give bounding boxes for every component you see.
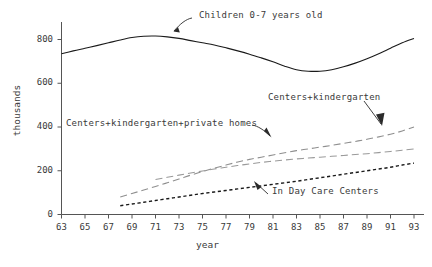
x-tick-marks xyxy=(62,215,415,219)
y-tick-label: 400 xyxy=(19,121,53,131)
arrow-head-ckph xyxy=(264,128,272,138)
x-tick-label: 85 xyxy=(310,222,330,232)
y-tick-label: 600 xyxy=(19,77,53,87)
x-tick-label: 83 xyxy=(287,222,307,232)
annotation-centers-kindergarten: Centers+kindergarten xyxy=(268,92,380,102)
x-tick-label: 79 xyxy=(240,222,260,232)
x-tick-label: 77 xyxy=(216,222,236,232)
x-tick-label: 91 xyxy=(381,222,401,232)
y-tick-label: 200 xyxy=(19,165,53,175)
series-line-children-0-7 xyxy=(62,36,415,71)
x-tick-label: 93 xyxy=(404,222,424,232)
annotation-centers-kindergarten-private-homes: Centers+kindergarten+private homes xyxy=(66,118,257,128)
x-tick-label: 69 xyxy=(122,222,142,232)
annotation-arrows xyxy=(174,18,385,194)
x-tick-label: 89 xyxy=(357,222,377,232)
x-tick-label: 63 xyxy=(52,222,72,232)
x-axis-title: year xyxy=(196,239,219,250)
series-line-centers-kindergarten xyxy=(156,149,415,180)
x-tick-label: 67 xyxy=(99,222,119,232)
chart-figure: thousands year 0200400600800 63656769717… xyxy=(0,0,432,267)
annotation-children-0-7: Children 0-7 years old xyxy=(199,10,323,20)
x-tick-label: 75 xyxy=(193,222,213,232)
y-tick-label: 0 xyxy=(19,209,53,219)
annotation-in-day-care-centers: In Day Care Centers xyxy=(272,186,379,196)
x-tick-label: 71 xyxy=(146,222,166,232)
x-tick-label: 87 xyxy=(334,222,354,232)
x-tick-label: 81 xyxy=(263,222,283,232)
x-tick-label: 73 xyxy=(169,222,189,232)
arrow-leader-centers-kindergarten xyxy=(364,101,381,124)
y-tick-marks xyxy=(58,40,62,215)
y-tick-label: 800 xyxy=(19,34,53,44)
series-line-in-day-care-centers xyxy=(120,163,414,206)
x-tick-label: 65 xyxy=(75,222,95,232)
